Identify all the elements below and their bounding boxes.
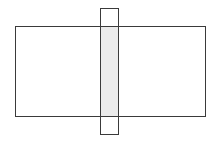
intersecting-rectangles-diagram [0,0,217,144]
overlap-region [101,27,119,117]
